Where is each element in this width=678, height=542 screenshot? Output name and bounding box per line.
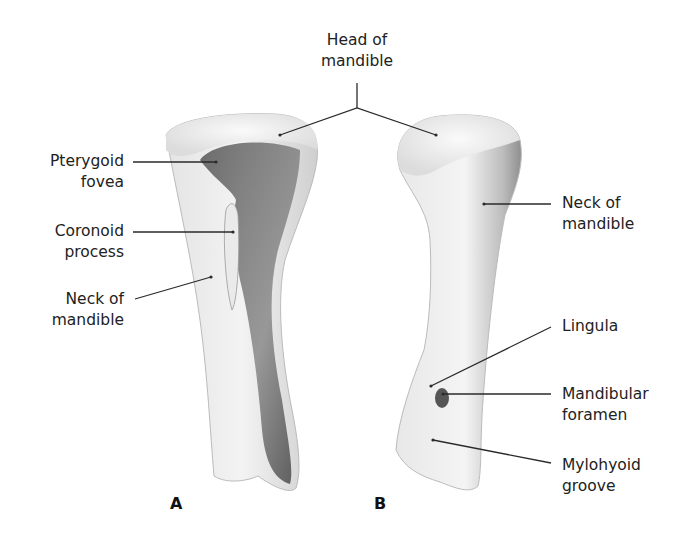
bone-a	[166, 114, 317, 491]
label-head-of-mandible: Head of mandible	[310, 30, 404, 72]
label-neck-of-mandible-b: Neck of mandible	[562, 193, 634, 235]
panel-label-b: B	[374, 494, 386, 513]
label-neck-of-mandible-a: Neck of mandible	[20, 289, 124, 331]
label-line: Pterygoid	[20, 151, 124, 172]
label-line: mandible	[310, 51, 404, 72]
label-line: mandible	[20, 310, 124, 331]
label-pterygoid-fovea: Pterygoid fovea	[20, 151, 124, 193]
label-line: Neck of	[562, 193, 634, 214]
label-line: process	[20, 242, 124, 263]
label-mandibular-foramen: Mandibular foramen	[562, 384, 649, 426]
label-line: Neck of	[20, 289, 124, 310]
label-line: fovea	[20, 172, 124, 193]
mandible-ramus-figure: Head of mandible Pterygoid fovea Coronoi…	[0, 0, 678, 542]
panel-label-a: A	[170, 494, 182, 513]
label-line: groove	[562, 476, 641, 497]
label-line: foramen	[562, 405, 649, 426]
bone-b	[396, 115, 521, 490]
label-line: mandible	[562, 214, 634, 235]
label-line: Head of	[310, 30, 404, 51]
label-coronoid-process: Coronoid process	[20, 221, 124, 263]
label-lingula: Lingula	[562, 316, 618, 337]
label-line: Lingula	[562, 316, 618, 337]
label-mylohyoid-groove: Mylohyoid groove	[562, 455, 641, 497]
label-line: Mylohyoid	[562, 455, 641, 476]
label-line: Mandibular	[562, 384, 649, 405]
label-line: Coronoid	[20, 221, 124, 242]
